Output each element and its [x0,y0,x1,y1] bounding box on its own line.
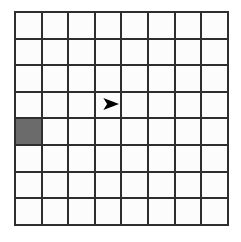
grid-cell[interactable] [43,66,68,91]
grid-cell[interactable] [149,66,174,91]
grid-line-vertical [147,11,149,226]
grid-cell[interactable] [69,146,94,171]
grid-line-vertical [41,11,43,226]
grid-cell[interactable] [176,66,201,91]
grid-line-vertical [14,11,16,226]
grid-cell[interactable] [176,173,201,198]
grid-cell[interactable] [176,93,201,118]
puzzle-canvas [0,0,241,242]
grid-cell[interactable] [202,199,227,224]
grid-line-vertical [227,11,229,226]
grid-cell[interactable] [16,173,41,198]
grid-board[interactable] [14,11,229,226]
grid-cell[interactable] [16,66,41,91]
grid-line-vertical [174,11,176,226]
grid-cell[interactable] [69,13,94,38]
grid-cell[interactable] [96,199,121,224]
grid-cell[interactable] [96,146,121,171]
grid-cell[interactable] [149,40,174,65]
grid-cell[interactable] [122,146,147,171]
grid-cell[interactable] [96,173,121,198]
grid-cell[interactable] [43,173,68,198]
grid-cell[interactable] [96,13,121,38]
grid-line-vertical [94,11,96,226]
grid-cell[interactable] [96,40,121,65]
grid-cell[interactable] [122,119,147,144]
grid-cell[interactable] [43,93,68,118]
grid-cell[interactable] [16,40,41,65]
grid-line-vertical [120,11,122,226]
grid-cell[interactable] [202,13,227,38]
grid-cell[interactable] [43,199,68,224]
grid-cell[interactable] [122,66,147,91]
grid-cell[interactable] [202,119,227,144]
grid-cell[interactable] [202,146,227,171]
grid-cell[interactable] [16,199,41,224]
grid-cell[interactable] [69,199,94,224]
grid-cell[interactable] [96,119,121,144]
grid-cell[interactable] [202,66,227,91]
grid-cell[interactable] [149,146,174,171]
grid-cell[interactable] [69,93,94,118]
grid-cell[interactable] [16,93,41,118]
grid-cell[interactable] [122,199,147,224]
grid-cell[interactable] [149,199,174,224]
grid-cell[interactable] [149,13,174,38]
grid-cell[interactable] [202,173,227,198]
grid-line-vertical [67,11,69,226]
grid-cell[interactable] [122,40,147,65]
grid-cell[interactable] [96,93,121,118]
grid-cell[interactable] [176,199,201,224]
grid-cell[interactable] [16,13,41,38]
grid-cell[interactable] [149,93,174,118]
grid-cell[interactable] [43,40,68,65]
grid-cell[interactable] [69,40,94,65]
grid-cell[interactable] [122,13,147,38]
grid-line-vertical [200,11,202,226]
grid-cell[interactable] [176,13,201,38]
grid-cell[interactable] [149,119,174,144]
grid-cell[interactable] [69,119,94,144]
grid-cell[interactable] [122,93,147,118]
grid-cell[interactable] [16,146,41,171]
grid-cell[interactable] [69,66,94,91]
grid-cell[interactable] [176,146,201,171]
grid-cell[interactable] [202,40,227,65]
grid-cell[interactable] [176,119,201,144]
grid-cell[interactable] [43,119,68,144]
grid-cell[interactable] [149,173,174,198]
grid-cell[interactable] [202,93,227,118]
grid-cell[interactable] [69,173,94,198]
grid-cell[interactable] [122,173,147,198]
filled-cell[interactable] [16,119,41,144]
grid-cell[interactable] [43,146,68,171]
grid-cell[interactable] [43,13,68,38]
grid-cell[interactable] [96,66,121,91]
grid-cell[interactable] [176,40,201,65]
